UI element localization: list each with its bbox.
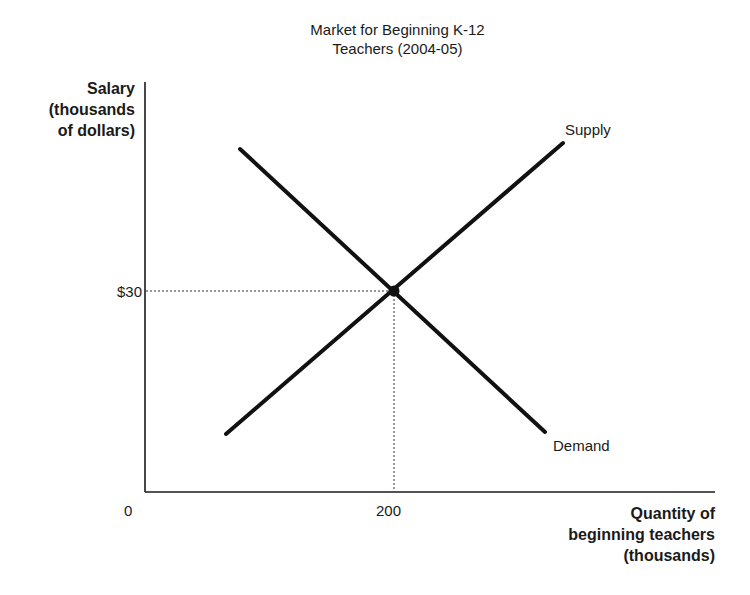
xlabel-line-3: (thousands) (480, 545, 715, 566)
x-tick-200: 200 (376, 502, 401, 519)
xlabel-line-1: Quantity of (480, 503, 715, 524)
demand-label: Demand (553, 437, 610, 454)
x-axis-label: Quantity of beginning teachers (thousand… (480, 503, 715, 566)
x-tick-0: 0 (124, 502, 132, 519)
supply-label: Supply (565, 121, 611, 138)
equilibrium-point (389, 286, 400, 297)
xlabel-line-2: beginning teachers (480, 524, 715, 545)
y-tick-30: $30 (117, 283, 142, 300)
